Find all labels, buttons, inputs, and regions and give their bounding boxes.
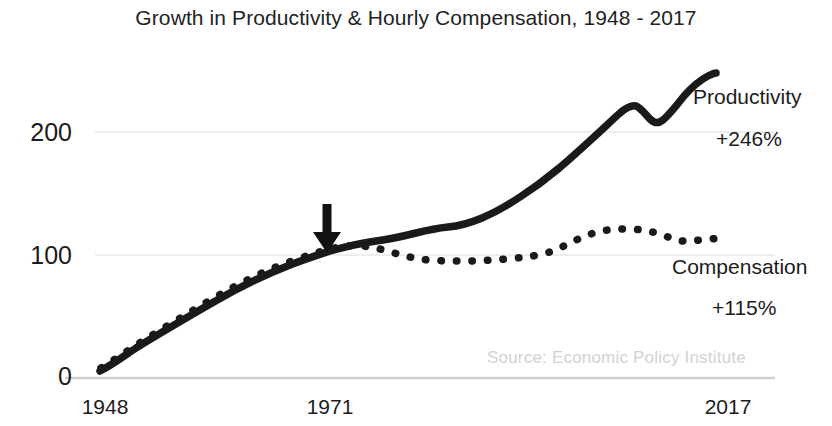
x-axis-tick-2017: 2017	[668, 395, 788, 419]
y-axis-tick-200: 200	[0, 118, 72, 147]
y-axis-tick-100: 100	[0, 241, 72, 270]
chart-container: Growth in Productivity & Hourly Compensa…	[0, 0, 832, 426]
series-value-productivity: +246%	[716, 127, 782, 151]
y-axis-tick-0: 0	[0, 362, 72, 391]
x-axis-tick-1948: 1948	[45, 395, 165, 419]
source-attribution: Source: Economic Policy Institute	[487, 348, 746, 368]
series-label-compensation: Compensation	[672, 255, 807, 279]
series-label-productivity: Productivity	[693, 85, 802, 109]
series-value-compensation: +115%	[712, 296, 776, 320]
x-axis-tick-1971: 1971	[270, 395, 390, 419]
series-line-productivity	[100, 73, 716, 371]
gridlines	[95, 132, 775, 255]
